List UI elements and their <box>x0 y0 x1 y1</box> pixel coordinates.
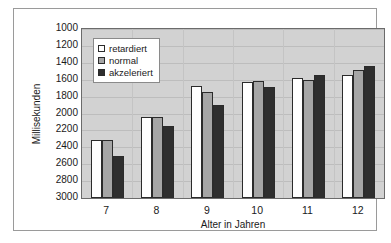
y-axis-tick-label: 1600 <box>42 73 78 85</box>
legend-item: akzeleriert <box>98 67 153 78</box>
x-axis-tick-label: 11 <box>288 203 328 217</box>
bar-akzeleriert-7 <box>113 156 124 198</box>
bar-retardiert-7 <box>91 140 102 198</box>
bar-group <box>334 29 384 198</box>
y-axis-tick-label: 1000 <box>42 22 78 34</box>
x-axis-tick-label: 10 <box>237 203 277 217</box>
bar-akzeleriert-11 <box>314 75 325 198</box>
y-axis-tick-label: 2800 <box>42 174 78 186</box>
legend-item-label: retardiert <box>109 43 147 54</box>
bar-normal-11 <box>303 80 314 198</box>
bar-akzeleriert-9 <box>213 105 224 198</box>
legend-item-label: normal <box>109 55 138 66</box>
y-axis-tick-label: 1800 <box>42 90 78 102</box>
x-axis-tick-labels: 789101112 <box>81 203 385 217</box>
bar-akzeleriert-8 <box>163 126 174 198</box>
x-axis-title: Alter in Jahren <box>81 218 385 232</box>
legend-item-label: akzeleriert <box>109 67 153 78</box>
y-axis-tick-label: 2000 <box>42 107 78 119</box>
y-axis-tick-labels: 1000120014001600180020002200240026002800… <box>42 28 78 199</box>
y-axis-tick-label: 1200 <box>42 39 78 51</box>
bar-retardiert-12 <box>342 75 353 198</box>
x-axis-tick-label: 9 <box>187 203 227 217</box>
chart-legend: retardiertnormalakzeleriert <box>93 38 160 83</box>
bar-group <box>283 29 333 198</box>
bar-group <box>233 29 283 198</box>
gridline <box>82 198 384 199</box>
bar-normal-10 <box>253 81 264 198</box>
bar-retardiert-10 <box>242 82 253 198</box>
bar-retardiert-11 <box>292 78 303 198</box>
bar-retardiert-8 <box>141 117 152 198</box>
x-axis-tick-label: 12 <box>338 203 378 217</box>
y-axis-tick-label: 2400 <box>42 140 78 152</box>
bar-normal-8 <box>152 117 163 198</box>
bar-normal-12 <box>353 70 364 198</box>
legend-swatch-icon <box>98 57 105 64</box>
y-axis-tick-label: 2600 <box>42 157 78 169</box>
bar-group <box>183 29 233 198</box>
bar-normal-7 <box>102 140 113 198</box>
bar-akzeleriert-12 <box>364 66 375 198</box>
bar-retardiert-9 <box>191 86 202 198</box>
bar-akzeleriert-10 <box>264 87 275 198</box>
legend-item: retardiert <box>98 43 153 54</box>
x-axis-tick-label: 7 <box>86 203 126 217</box>
y-axis-tick-label: 3000 <box>42 191 78 203</box>
legend-item: normal <box>98 55 153 66</box>
x-axis-tick-label: 8 <box>137 203 177 217</box>
legend-swatch-icon <box>98 45 105 52</box>
y-axis-tick-label: 1400 <box>42 56 78 68</box>
chart-figure: Millisekunden 10001200140016001800200022… <box>0 0 391 243</box>
chart-frame: Millisekunden 10001200140016001800200022… <box>13 8 377 231</box>
bar-normal-9 <box>202 92 213 198</box>
y-axis-tick-label: 2200 <box>42 123 78 135</box>
legend-swatch-icon <box>98 69 105 76</box>
